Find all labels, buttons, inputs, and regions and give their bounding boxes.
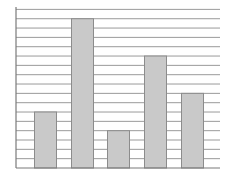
- bar-4: [145, 56, 167, 168]
- bar-chart: [0, 0, 234, 178]
- bar-3: [108, 131, 130, 168]
- bar-2: [72, 19, 94, 168]
- bar-1: [35, 112, 57, 168]
- bar-5: [182, 93, 204, 168]
